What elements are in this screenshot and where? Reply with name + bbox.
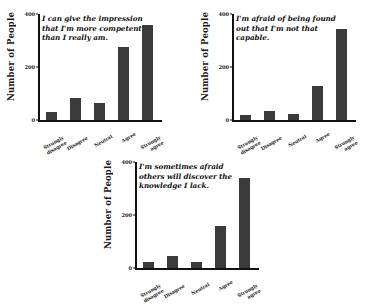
x-tick-label: Agree <box>218 280 234 293</box>
chart-panel: Number of People I can give the impressi… <box>0 0 194 150</box>
bar <box>264 111 275 120</box>
bar-series <box>40 14 160 120</box>
x-tick-label: Agree <box>315 132 331 145</box>
x-tick-label: Stronglydisagree <box>140 283 165 304</box>
x-tick-label: Disagree <box>163 283 186 299</box>
plot-area: I'm afraid of being found out that I'm n… <box>232 14 354 122</box>
y-tick-mark <box>230 14 233 15</box>
y-tick-mark <box>230 120 233 121</box>
bar-series <box>234 14 354 120</box>
y-tick-label: 0 <box>128 265 132 271</box>
y-tick-mark <box>230 67 233 68</box>
bar <box>312 86 323 121</box>
x-axis-line <box>232 120 356 122</box>
chart-panel: Number of People I'm afraid of being fou… <box>194 0 388 150</box>
y-tick-label: 400 <box>121 159 132 165</box>
x-axis-labels: StronglydisagreeDisagreeNeutralAgreeStro… <box>135 272 259 298</box>
x-axis-line <box>135 268 259 270</box>
bar <box>215 226 226 269</box>
y-axis-label: Number of People <box>2 0 20 112</box>
x-tick-label: Neutral <box>93 134 113 149</box>
plot-area: I'm sometimes afraid others will discove… <box>135 162 257 270</box>
y-tick-label: 200 <box>218 64 229 70</box>
y-tick-label: 0 <box>31 117 35 123</box>
y-tick-mark <box>36 67 39 68</box>
x-axis-labels: StronglydisagreeDisagreeNeutralAgreeStro… <box>232 124 356 150</box>
x-tick-label: Stronglydisagree <box>43 135 68 156</box>
bar <box>336 29 347 121</box>
bar <box>142 25 153 121</box>
y-axis-label: Number of People <box>99 148 117 260</box>
bar <box>191 262 202 269</box>
y-tick-mark <box>133 215 136 216</box>
x-axis-labels: StronglydisagreeDisagreeNeutralAgreeStro… <box>38 124 162 150</box>
x-axis-line <box>38 120 162 122</box>
x-tick-label: Stronglyagree <box>334 135 359 156</box>
bar <box>46 112 57 120</box>
bar <box>239 178 250 268</box>
y-tick-mark <box>36 120 39 121</box>
x-tick-label: Disagree <box>66 135 89 151</box>
y-tick-label: 200 <box>24 64 35 70</box>
chart-panel: Number of People I'm sometimes afraid ot… <box>97 148 291 298</box>
x-tick-label: Neutral <box>190 282 210 297</box>
x-tick-label: Neutral <box>287 134 307 149</box>
bar <box>118 47 129 120</box>
y-tick-mark <box>133 268 136 269</box>
bar <box>143 262 154 269</box>
x-tick-label: Stronglyagree <box>237 283 262 304</box>
x-tick-label: Agree <box>121 132 137 145</box>
y-axis-label: Number of People <box>196 0 214 112</box>
bar <box>70 98 81 121</box>
y-tick-label: 0 <box>225 117 229 123</box>
y-tick-mark <box>36 14 39 15</box>
bar-series <box>137 162 257 268</box>
plot-area: I can give the impression that I'm more … <box>38 14 160 122</box>
y-tick-mark <box>133 162 136 163</box>
y-tick-label: 400 <box>218 11 229 17</box>
bar <box>240 115 251 120</box>
bar <box>94 103 105 120</box>
y-tick-label: 200 <box>121 212 132 218</box>
bar <box>288 114 299 121</box>
bar <box>167 256 178 268</box>
y-tick-label: 400 <box>24 11 35 17</box>
